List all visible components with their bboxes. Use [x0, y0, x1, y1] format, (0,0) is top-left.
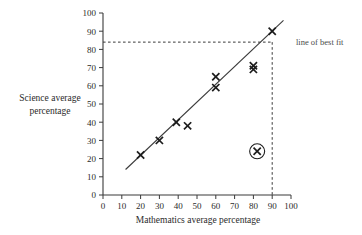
y-axis-title-line-1: Science average — [4, 92, 96, 105]
y-tick-label: 80 — [87, 45, 97, 55]
scatter-plot-figure: 0102030405060708090100 01020304050607080… — [0, 0, 362, 235]
x-tick-label: 20 — [136, 201, 146, 211]
x-tick-label: 30 — [155, 201, 165, 211]
x-tick-label: 40 — [174, 201, 184, 211]
x-axis-title: Mathematics average percentage — [103, 214, 293, 227]
x-tick-label: 90 — [268, 201, 278, 211]
circled-outlier-point — [250, 144, 265, 159]
y-tick-label: 10 — [87, 172, 97, 182]
y-axis-title: Science average percentage — [4, 92, 96, 118]
y-axis-title-line-2: percentage — [4, 105, 96, 118]
y-tick-label: 40 — [87, 118, 97, 128]
data-point-x-marker — [212, 84, 219, 91]
reference-lines-group — [103, 42, 272, 195]
data-point-x-marker — [269, 28, 276, 35]
y-tick-label: 0 — [92, 190, 97, 200]
best-fit-line-segment — [126, 20, 284, 169]
x-tick-label: 60 — [211, 201, 221, 211]
x-tick-label: 80 — [249, 201, 259, 211]
y-tick-label: 90 — [87, 27, 97, 37]
x-tick-label: 0 — [101, 201, 106, 211]
y-tick-label: 30 — [87, 136, 97, 146]
x-tick-label: 100 — [284, 201, 298, 211]
data-point-x-marker — [212, 73, 219, 80]
y-tick-label: 70 — [87, 63, 97, 73]
y-tick-label: 20 — [87, 154, 97, 164]
data-point-x-marker — [184, 122, 191, 129]
line-of-best-fit — [126, 20, 284, 169]
y-tick-label: 60 — [87, 81, 97, 91]
x-tick-label: 10 — [117, 201, 127, 211]
x-tick-label: 50 — [193, 201, 203, 211]
y-tick-label: 100 — [83, 8, 97, 18]
data-point-x-marker — [173, 119, 180, 126]
x-tick-label: 70 — [230, 201, 240, 211]
data-point-x-marker — [137, 151, 144, 158]
x-axis-ticks: 0102030405060708090100 — [101, 195, 299, 211]
line-of-best-fit-label: line of best fit — [296, 37, 343, 47]
